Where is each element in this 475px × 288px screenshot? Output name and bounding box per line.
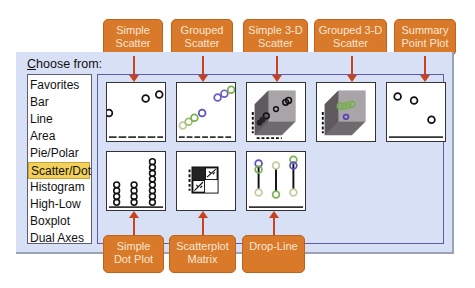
callout-scatterplot-matrix: Scatterplot Matrix [169, 235, 236, 273]
callout-text: Grouped [172, 24, 232, 37]
callout-text: Matrix [170, 253, 235, 266]
callout-grouped-3d-scatter: Grouped 3-D Scatter [314, 19, 387, 56]
arrow [202, 213, 204, 237]
arrow [351, 56, 353, 80]
grouped-scatter-icon [177, 83, 235, 141]
summary-point-plot-icon [387, 83, 445, 141]
drop-line-icon [247, 152, 305, 210]
list-item-high-low[interactable]: High-Low [28, 196, 90, 213]
simple-3d-scatter-icon [247, 83, 305, 141]
mnemonic: C [27, 57, 36, 71]
list-item-favorites[interactable]: Favorites [28, 77, 90, 94]
list-item-line[interactable]: Line [28, 111, 90, 128]
thumb-summary-point-plot[interactable] [386, 82, 446, 142]
choose-from-label: Choose from: [27, 57, 102, 71]
callout-text: Point Plot [395, 37, 455, 50]
callout-text: Simple [104, 24, 162, 37]
arrow [424, 56, 426, 80]
callout-simple-dot-plot: Simple Dot Plot [103, 235, 164, 273]
list-item-bar[interactable]: Bar [28, 94, 90, 111]
callout-text: Scatterplot [170, 240, 235, 253]
callout-simple-3d-scatter: Simple 3-D Scatter [243, 19, 308, 56]
callout-summary-point-plot: Summary Point Plot [394, 19, 456, 56]
thumb-simple-3d-scatter[interactable] [246, 82, 306, 142]
thumb-grouped-3d-scatter[interactable] [316, 82, 376, 142]
arrow [276, 56, 278, 80]
callout-text: Scatter [172, 37, 232, 50]
callout-text: Dot Plot [104, 253, 163, 266]
simple-dot-plot-icon [107, 152, 165, 210]
callout-simple-scatter: Simple Scatter [103, 19, 163, 56]
callout-text: Scatter [315, 37, 386, 50]
list-item-area[interactable]: Area [28, 128, 90, 145]
grouped-3d-scatter-icon [317, 83, 375, 141]
list-item-boxplot[interactable]: Boxplot [28, 213, 90, 230]
list-item-dual-axes[interactable]: Dual Axes [28, 230, 90, 247]
callout-text: Simple [104, 240, 163, 253]
callout-text: Scatter [244, 37, 307, 50]
callout-text: Drop-Line [243, 240, 304, 253]
arrow [133, 56, 135, 80]
list-item-scatter-dot[interactable]: Scatter/Dot [28, 162, 90, 179]
callout-text: Summary [395, 24, 455, 37]
thumb-grouped-scatter[interactable] [176, 82, 236, 142]
chart-type-list[interactable]: Favorites Bar Line Area Pie/Polar Scatte… [27, 74, 92, 244]
thumb-drop-line[interactable] [246, 151, 306, 211]
callout-drop-line: Drop-Line [242, 235, 305, 273]
callout-text: Grouped 3-D [315, 24, 386, 37]
simple-scatter-icon [107, 83, 165, 141]
label-text: hoose from: [36, 57, 102, 71]
arrow [133, 213, 135, 237]
thumb-simple-scatter[interactable] [106, 82, 166, 142]
callout-grouped-scatter: Grouped Scatter [171, 19, 233, 56]
scatterplot-matrix-icon [177, 152, 235, 210]
thumb-scatterplot-matrix[interactable] [176, 151, 236, 211]
arrow [273, 213, 275, 237]
list-item-pie-polar[interactable]: Pie/Polar [28, 145, 90, 162]
arrow [202, 56, 204, 80]
list-item-histogram[interactable]: Histogram [28, 179, 90, 196]
callout-text: Scatter [104, 37, 162, 50]
thumb-simple-dot-plot[interactable] [106, 151, 166, 211]
callout-text: Simple 3-D [244, 24, 307, 37]
